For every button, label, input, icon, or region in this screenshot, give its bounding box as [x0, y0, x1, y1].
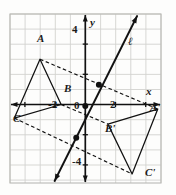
line-of-reflection-arrow-end	[132, 16, 138, 23]
y-axis-arrow-up	[83, 15, 88, 22]
y-tick-label-4: 4	[72, 24, 78, 35]
y-axis-arrow-down	[83, 176, 88, 183]
vertex-label-b: B	[64, 83, 71, 94]
axes-group	[11, 15, 160, 182]
midpoint-dots	[73, 82, 102, 141]
line-label-ell: ℓ	[128, 36, 133, 47]
vertex-label-c-prime: C'	[145, 167, 155, 178]
origin-label: 0	[74, 100, 80, 111]
x-axis-label: x	[146, 86, 152, 97]
vertex-label-a-prime: A'	[150, 102, 160, 113]
x-axis-arrow-left	[11, 102, 18, 107]
geometry-figure-canvas: A B C A' B' C' ℓ x y -2 2 4 -4 0	[0, 0, 176, 195]
vertex-label-a: A	[37, 33, 44, 44]
y-tick-label-neg4: -4	[72, 156, 81, 167]
vertex-label-b-prime: B'	[105, 123, 115, 134]
vertex-label-c: C	[13, 113, 20, 124]
x-tick-label-2: 2	[110, 99, 116, 110]
y-axis-label: y	[90, 17, 95, 28]
midpoint-dot	[82, 103, 88, 109]
midpoint-dot	[73, 135, 79, 141]
x-tick-label-neg2: -2	[48, 99, 57, 110]
midpoint-dot	[96, 82, 102, 88]
